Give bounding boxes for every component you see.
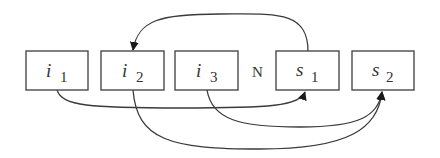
node-box <box>276 51 339 90</box>
node-subscript: 1 <box>311 69 319 85</box>
node-box <box>101 51 164 90</box>
edge-i3-to-s2 <box>207 90 382 127</box>
node-box <box>352 51 414 90</box>
node-i2: i 2 <box>101 51 164 90</box>
node-s2: s 2 <box>352 51 414 90</box>
diagram-canvas: i 1 i 2 i 3 N s 1 s 2 <box>0 0 440 158</box>
node-i1: i 1 <box>26 51 88 90</box>
node-label: i <box>46 60 51 81</box>
node-label: i <box>196 60 201 81</box>
node-subscript: 2 <box>136 69 144 85</box>
node-label: s <box>372 59 379 80</box>
node-subscript: 2 <box>386 69 394 85</box>
node-subscript: 3 <box>210 69 218 85</box>
node-box <box>175 51 238 90</box>
separator-label: N <box>252 64 263 80</box>
node-s1: s 1 <box>276 51 339 90</box>
node-subscript: 1 <box>60 69 68 85</box>
edge-i1-to-s1 <box>57 90 305 108</box>
node-label: s <box>296 59 303 80</box>
node-box <box>26 51 88 90</box>
edge-s1-to-i2 <box>133 14 308 51</box>
node-i3: i 3 <box>175 51 238 90</box>
edge-i2-to-s2 <box>133 90 382 149</box>
node-label: i <box>122 60 127 81</box>
